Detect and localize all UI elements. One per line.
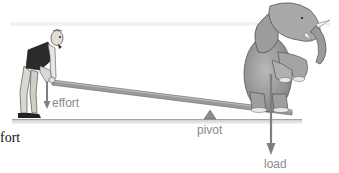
effort-arrow-icon — [44, 82, 51, 109]
pivot-icon — [204, 110, 216, 119]
elephant-figure — [244, 3, 330, 113]
ground — [12, 119, 302, 124]
lever-diagram: effort pivot load fort — [0, 0, 339, 173]
cropped-caption: fort — [0, 131, 20, 145]
illustration-canvas — [0, 0, 339, 173]
effort-label: effort — [52, 97, 79, 109]
pivot-label: pivot — [197, 124, 222, 136]
load-label: load — [264, 158, 287, 170]
